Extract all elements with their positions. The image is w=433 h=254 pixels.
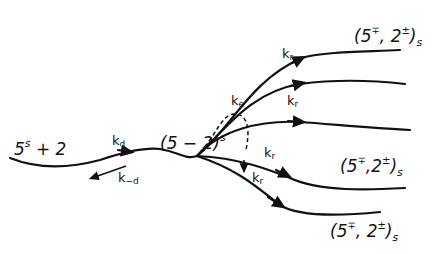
kr-label-2: kr xyxy=(287,93,299,109)
reactant-label: 5s + 2 xyxy=(14,137,66,159)
arrow-icon xyxy=(292,58,302,63)
branch-second xyxy=(197,81,405,156)
product-label-middle: (5∓,2±)s xyxy=(340,155,403,179)
kr-label-1: kr xyxy=(282,46,294,62)
branch-top xyxy=(197,50,400,156)
branch-third xyxy=(197,122,410,156)
reaction-diagram: 5s + 2 kd k−d (5 − 2)s ke kr kr kr kr (5… xyxy=(0,0,433,254)
k-minus-d-label: k−d xyxy=(118,170,139,186)
kr-label-3: kr xyxy=(264,145,276,161)
ke-label: ke xyxy=(231,93,245,109)
intermediate-label: (5 − 2)s xyxy=(160,131,226,153)
kr-label-4: kr xyxy=(252,170,264,186)
arrow-icon xyxy=(290,83,302,86)
kd-label: kd xyxy=(112,133,125,149)
product-label-bottom: (5∓, 2±)s xyxy=(330,220,399,244)
arrow-icon xyxy=(288,121,302,122)
kd-arrow-icon xyxy=(118,150,130,152)
arrow-icon xyxy=(268,197,282,206)
product-label-top: (5∓, 2±)s xyxy=(354,25,423,49)
